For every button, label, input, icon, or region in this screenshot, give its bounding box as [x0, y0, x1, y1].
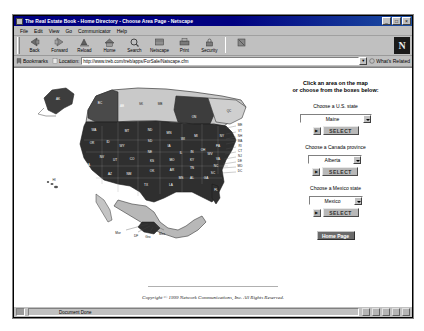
url-dropdown-button[interactable]: ▼ — [359, 57, 367, 65]
netscape-logo[interactable]: N — [394, 37, 410, 54]
map-label-ms: MS — [179, 176, 184, 180]
back-button-label: Back — [29, 48, 39, 54]
map-label-il: IL — [180, 151, 183, 155]
home-button-label: Home — [103, 48, 115, 54]
area-selection-form: Click an area on the map or choose from … — [259, 68, 412, 306]
canada-province-select-button[interactable]: SELECT — [322, 167, 358, 176]
map-label-dc: DC — [238, 169, 243, 173]
minimize-button[interactable]: _ — [382, 17, 391, 25]
home-icon — [103, 37, 116, 48]
security-lock-icon[interactable] — [16, 308, 25, 316]
map-label-sd: SD — [148, 139, 153, 143]
newsgroup-status-icon[interactable] — [372, 308, 380, 316]
chevron-down-icon[interactable] — [353, 156, 361, 164]
location-bar: Bookmarks Location: http://www.treb.com/… — [14, 56, 412, 67]
lock-icon — [203, 37, 216, 48]
mail-status-icon[interactable] — [362, 308, 370, 316]
map-label-mo: MO — [170, 158, 176, 162]
mexico-state-label: Choose a Mexico state — [309, 185, 363, 192]
map-label-ct: CT — [238, 149, 242, 153]
browser-window: The Real Estate Book - Home Directory - … — [13, 15, 413, 318]
map-label-ma: MA — [238, 139, 244, 143]
go-arrow-icon[interactable]: ▶ — [313, 209, 321, 217]
netscape-window-icon — [16, 18, 23, 25]
menu-item-edit[interactable]: Edit — [31, 27, 46, 35]
close-button[interactable]: × — [402, 17, 411, 25]
forward-button[interactable]: Forward — [47, 37, 72, 54]
mexico-state-select-button[interactable]: SELECT — [323, 208, 359, 217]
security-button[interactable]: Security — [197, 37, 222, 54]
print-button-label: Print — [180, 48, 189, 54]
map-label-ri: RI — [238, 144, 241, 148]
go-arrow-icon[interactable]: ▶ — [313, 127, 321, 135]
stop-button[interactable] — [229, 37, 254, 48]
north-america-imagemap[interactable]: WAORIDMTNDMNWIMIWYSDNEIAILINOHPANYCANVUT… — [26, 74, 254, 259]
us-state-label: Choose a U.S. state — [300, 103, 372, 110]
map-label-tx: TX — [144, 183, 148, 187]
us-state-field-group: Choose a U.S. state Maine ▶ SELECT — [300, 103, 372, 135]
whats-related-label: What's Related — [376, 58, 410, 64]
map-region-hawaii[interactable] — [47, 181, 58, 188]
toolbar-separator — [225, 37, 226, 53]
bookmarks-button[interactable]: Bookmarks — [16, 58, 48, 64]
menu-item-file[interactable]: File — [17, 27, 31, 35]
home-button[interactable]: Home — [97, 37, 122, 54]
map-region-alaska[interactable] — [44, 88, 74, 114]
netscape-icon — [153, 37, 166, 48]
toolbar-grip[interactable] — [17, 37, 20, 54]
search-button[interactable]: Search — [122, 37, 147, 54]
search-button-label: Search — [127, 48, 141, 54]
map-region-bc-ab[interactable] — [88, 90, 118, 122]
map-label-gro: Gro — [145, 235, 151, 239]
compass-icon — [369, 58, 375, 64]
whats-related-button[interactable]: What's Related — [367, 58, 412, 64]
us-state-selected-value: Maine — [301, 115, 363, 123]
menu-item-go[interactable]: Go — [62, 27, 75, 35]
netscape-button[interactable]: Netscape — [147, 37, 172, 54]
back-button[interactable]: Back — [22, 37, 47, 54]
print-icon — [178, 37, 191, 48]
map-column: WAORIDMTNDMNWIMIWYSDNEIAILINOHPANYCANVUT… — [14, 68, 259, 306]
status-tray — [362, 308, 410, 316]
instruction-line-1: Click an area on the map — [303, 80, 368, 87]
reload-icon — [78, 37, 91, 48]
addressbook-status-icon[interactable] — [382, 308, 390, 316]
conference-status-icon[interactable] — [402, 308, 410, 316]
chevron-down-icon[interactable] — [363, 115, 371, 123]
chevron-down-icon[interactable] — [354, 197, 362, 205]
menu-item-help[interactable]: Help — [114, 27, 130, 35]
map-label-tn: TN — [190, 166, 194, 170]
map-label-ny: NY — [220, 134, 224, 138]
us-state-select-button[interactable]: SELECT — [323, 126, 359, 135]
map-label-in: IN — [190, 150, 193, 154]
web-page: WAORIDMTNDMNWIMIWYSDNEIAILINOHPANYCANVUT… — [14, 68, 412, 306]
back-arrow-icon — [28, 37, 41, 48]
menu-item-view[interactable]: View — [46, 27, 63, 35]
window-controls: _ □ × — [382, 17, 411, 25]
footer-divider — [148, 286, 278, 287]
browser-content-area: WAORIDMTNDMNWIMIWYSDNEIAILINOHPANYCANVUT… — [14, 67, 412, 306]
map-label-hi: HI — [52, 178, 55, 182]
map-label-bc: BC — [98, 101, 103, 105]
bookmarks-label: Bookmarks — [23, 58, 48, 64]
map-label-mn: MN — [167, 131, 172, 135]
map-region-baja[interactable] — [96, 194, 112, 222]
home-page-button[interactable]: Home Page — [317, 231, 355, 240]
url-input[interactable]: http://www.treb.com/treb/apps/ForSale/Na… — [81, 57, 359, 65]
maximize-button[interactable]: □ — [392, 17, 401, 25]
menu-item-communicator[interactable]: Communicator — [75, 27, 114, 35]
us-state-select[interactable]: Maine — [300, 114, 372, 123]
print-button[interactable]: Print — [172, 37, 197, 54]
window-title: The Real Estate Book - Home Directory - … — [25, 18, 382, 25]
map-label-nc: NC — [214, 164, 219, 168]
map-label-on: ON — [192, 115, 197, 119]
composer-status-icon[interactable] — [392, 308, 400, 316]
mexico-state-select[interactable]: Mexico — [309, 196, 363, 205]
map-label-df: DF — [134, 234, 138, 238]
map-label-ky: KY — [190, 158, 194, 162]
reload-button[interactable]: Reload — [72, 37, 97, 54]
map-label-or: OR — [90, 141, 95, 145]
stop-icon — [235, 37, 248, 48]
canada-province-select[interactable]: Alberta — [308, 155, 362, 164]
go-arrow-icon[interactable]: ▶ — [312, 168, 320, 176]
